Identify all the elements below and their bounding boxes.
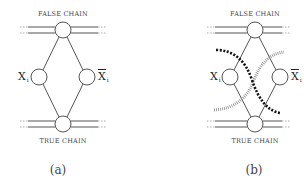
xi-subscript: i xyxy=(27,76,29,83)
true-chain-node xyxy=(247,116,263,132)
panel-b: FALSE CHAIN TRUE CHAIN Xi Xi (b) xyxy=(152,0,304,187)
false-chain-node xyxy=(247,22,263,38)
caption-a: (a) xyxy=(50,163,67,177)
diamond-edges xyxy=(43,37,83,117)
not-xi-node xyxy=(272,69,288,85)
xi-label: Xi xyxy=(18,70,29,83)
diagram-b-graphic xyxy=(152,0,304,187)
not-xi-label: Xi xyxy=(291,70,302,83)
false-chain-node xyxy=(55,22,71,38)
not-xi-subscript: i xyxy=(107,76,109,83)
true-chain-label: TRUE CHAIN xyxy=(39,137,86,145)
caption-b: (b) xyxy=(245,163,262,177)
diagram-a-graphic xyxy=(0,0,152,187)
xi-symbol: X xyxy=(18,70,26,83)
not-xi-subscript: i xyxy=(300,76,302,83)
true-chain-label: TRUE CHAIN xyxy=(231,137,278,145)
false-chain-label: FALSE CHAIN xyxy=(230,10,280,18)
not-xi-node xyxy=(79,69,95,85)
xi-subscript: i xyxy=(219,76,221,83)
xi-node xyxy=(31,69,47,85)
panel-a: FALSE CHAIN TRUE CHAIN Xi Xi (a) xyxy=(0,0,152,187)
true-chain-node xyxy=(55,116,71,132)
xi-symbol: X xyxy=(210,70,218,83)
not-xi-label: Xi xyxy=(98,70,109,83)
false-chain-label: FALSE CHAIN xyxy=(38,10,88,18)
not-xi-symbol: X xyxy=(98,70,106,83)
xi-label: Xi xyxy=(210,70,221,83)
xi-node xyxy=(222,69,238,85)
not-xi-symbol: X xyxy=(291,70,299,83)
